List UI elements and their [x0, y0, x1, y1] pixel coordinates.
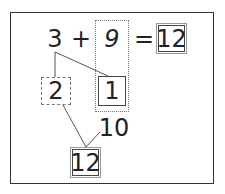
equals-sign: =: [133, 27, 155, 51]
result-box[interactable]: 12: [72, 149, 99, 176]
addend-1: 3: [44, 27, 66, 51]
addend-2: 9: [100, 27, 124, 51]
plus-sign: +: [70, 27, 92, 51]
answer-box[interactable]: 12: [158, 25, 185, 52]
line-2-to-12: [63, 105, 86, 147]
split-part-a-box[interactable]: 2: [41, 77, 71, 105]
make-ten-label: 10: [98, 116, 130, 140]
split-part-b-box[interactable]: 1: [98, 76, 126, 106]
